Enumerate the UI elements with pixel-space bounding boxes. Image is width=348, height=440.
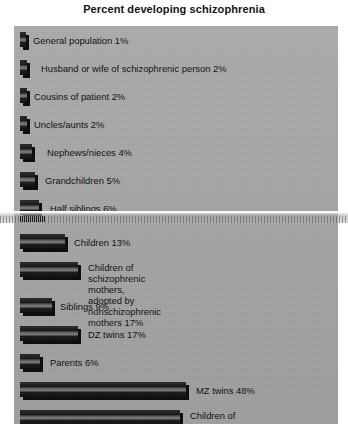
bar-side-shadow bbox=[27, 91, 30, 106]
bar-label: Children of two schizophrenic parents 46… bbox=[190, 410, 247, 424]
bar-graphic bbox=[20, 354, 43, 371]
bar-graphic bbox=[20, 382, 189, 399]
bar-label: MZ twins 48% bbox=[196, 382, 255, 399]
bar-side-shadow bbox=[40, 357, 43, 372]
bar-label: DZ twins 17% bbox=[88, 326, 146, 343]
bar-side-shadow bbox=[65, 237, 68, 252]
bar-label: Grandchildren 5% bbox=[45, 172, 120, 189]
bar-fill bbox=[20, 88, 27, 103]
bar-graphic bbox=[20, 88, 30, 105]
page-edge-highlight-bottom bbox=[0, 426, 348, 440]
chart-title: Percent developing schizophrenia bbox=[0, 3, 348, 15]
bar-graphic bbox=[20, 262, 81, 279]
bar-fill bbox=[20, 200, 39, 215]
bar-fill bbox=[20, 60, 27, 75]
bar-fill bbox=[20, 172, 35, 187]
bar-side-shadow bbox=[27, 63, 30, 78]
bar-label: Husband or wife of schizophrenic person … bbox=[41, 60, 227, 77]
bar-shadow bbox=[23, 249, 68, 252]
bar-graphic bbox=[20, 172, 38, 189]
bar-side-shadow bbox=[78, 265, 81, 280]
bar-graphic bbox=[20, 326, 81, 343]
bar-label: Siblings 9% bbox=[60, 298, 109, 315]
bar-graphic bbox=[20, 116, 30, 133]
page-edge-highlight-right bbox=[338, 0, 348, 440]
bar-graphic bbox=[20, 32, 29, 49]
bar-fill bbox=[20, 354, 40, 369]
bar-shadow bbox=[23, 341, 81, 344]
bar-label: Uncles/aunts 2% bbox=[34, 116, 104, 133]
bar-side-shadow bbox=[186, 385, 189, 400]
bar-fill bbox=[20, 234, 65, 249]
bar-graphic bbox=[20, 410, 183, 424]
bar-side-shadow bbox=[39, 203, 42, 218]
bar-graphic bbox=[20, 298, 55, 315]
bar-side-shadow bbox=[26, 35, 29, 50]
bar-side-shadow bbox=[180, 413, 183, 424]
bar-shadow bbox=[23, 313, 55, 316]
bar-label: Children of schizophrenic mothers, adopt… bbox=[88, 262, 161, 279]
bar-side-shadow bbox=[27, 119, 30, 134]
bar-fill bbox=[20, 382, 186, 397]
bar-fill bbox=[20, 262, 78, 277]
bar-graphic bbox=[20, 60, 30, 77]
bar-label: Half siblings 6% bbox=[50, 200, 117, 217]
bar-graphic bbox=[20, 234, 68, 251]
bar-graphic bbox=[20, 200, 42, 217]
bar-fill bbox=[20, 116, 27, 131]
bar-label: Nephews/nieces 4% bbox=[47, 144, 132, 161]
bar-fill bbox=[20, 326, 78, 341]
bar-side-shadow bbox=[78, 329, 81, 344]
bar-shadow bbox=[23, 277, 81, 280]
bar-fill bbox=[20, 144, 32, 159]
bar-fill bbox=[20, 298, 52, 313]
bar-side-shadow bbox=[52, 301, 55, 316]
chart-plot-area: General population 1%Husband or wife of … bbox=[14, 26, 338, 424]
bar-label: Cousins of patient 2% bbox=[34, 88, 125, 105]
bar-label: Children 13% bbox=[74, 234, 130, 251]
bar-graphic bbox=[20, 144, 35, 161]
bar-fill bbox=[20, 32, 26, 47]
bar-label: General population 1% bbox=[33, 32, 128, 49]
bar-shadow bbox=[23, 397, 189, 400]
bar-side-shadow bbox=[32, 147, 35, 162]
bar-label: Parents 6% bbox=[50, 354, 98, 371]
bar-fill bbox=[20, 410, 180, 424]
bar-side-shadow bbox=[35, 175, 38, 190]
